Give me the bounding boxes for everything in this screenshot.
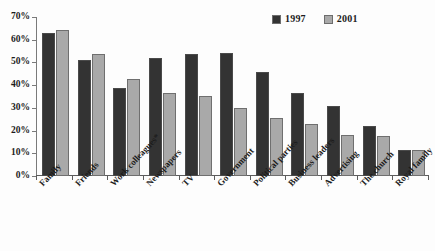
bar-2001 [199,96,212,176]
bar-2001 [92,54,105,176]
x-axis-category-labels: FamilyFriendsWork colleagues*NewspapersT… [36,182,428,251]
y-axis-tick-label: 0% [16,171,30,181]
legend-item-1997: 1997 [272,14,306,24]
bars-layer [37,17,428,176]
chart-legend: 1997 2001 [272,14,358,24]
y-axis-tick-label: 60% [11,35,30,45]
bar-1997 [220,53,233,176]
y-axis-tick-label: 40% [11,80,30,90]
plot-area: 0%10%20%30%40%50%60%70% [36,17,428,176]
legend-swatch-2001 [324,15,333,24]
bar-1997 [149,58,162,176]
bar-1997 [185,54,198,176]
bar-chart: 1997 2001 0%10%20%30%40%50%60%70% Family… [0,0,435,251]
bar-1997 [78,60,91,176]
x-axis-tick [428,175,429,180]
legend-item-2001: 2001 [324,14,358,24]
y-axis-tick-label: 30% [11,103,30,113]
y-axis-tick-label: 50% [11,58,30,68]
legend-swatch-1997 [272,15,281,24]
legend-label-2001: 2001 [337,14,358,24]
legend-label-1997: 1997 [285,14,306,24]
y-axis-tick-label: 20% [11,126,30,136]
bar-1997 [256,72,269,176]
bar-2001 [56,30,69,177]
y-axis-tick-label: 70% [11,12,30,22]
bar-1997 [42,33,55,176]
y-axis-tick-label: 10% [11,149,30,159]
